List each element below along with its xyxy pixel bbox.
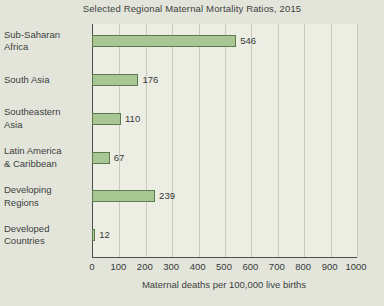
bar[interactable]	[92, 35, 236, 47]
bar[interactable]	[92, 113, 121, 125]
gridline	[357, 24, 358, 257]
bar-row: 110	[92, 102, 356, 138]
x-tick-label: 1000	[336, 261, 376, 272]
maternal-mortality-bar-chart: Selected Regional Maternal Mortality Rat…	[0, 0, 384, 306]
category-label: SoutheasternAsia	[4, 106, 88, 131]
bar-row: 546	[92, 24, 356, 60]
chart-title: Selected Regional Maternal Mortality Rat…	[0, 3, 384, 14]
x-axis-title: Maternal deaths per 100,000 live births	[92, 279, 356, 290]
bar-row: 239	[92, 179, 356, 215]
bar-row: 12	[92, 218, 356, 254]
bar-value-label: 67	[114, 151, 125, 165]
bar[interactable]	[92, 152, 110, 164]
bar-value-label: 110	[125, 112, 140, 126]
bar[interactable]	[92, 74, 138, 86]
category-label: Sub-SaharanAfrica	[4, 29, 88, 54]
bar-value-label: 239	[159, 189, 175, 203]
category-label: DevelopedCountries	[4, 223, 88, 248]
bar-value-label: 546	[240, 34, 256, 48]
category-label: DevelopingRegions	[4, 184, 88, 209]
category-label: South Asia	[4, 74, 88, 87]
bar-value-label: 176	[142, 73, 158, 87]
bar[interactable]	[92, 190, 155, 202]
bar-value-label: 12	[99, 228, 110, 242]
category-label: Latin America& Caribbean	[4, 145, 88, 170]
bar-row: 67	[92, 141, 356, 177]
bar[interactable]	[92, 229, 95, 241]
bar-row: 176	[92, 63, 356, 99]
